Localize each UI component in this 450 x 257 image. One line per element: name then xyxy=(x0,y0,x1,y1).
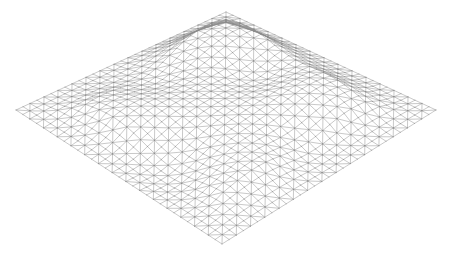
wireframe-terrain-mesh xyxy=(0,0,450,257)
terrain-viewport xyxy=(0,0,450,257)
mesh-lines xyxy=(16,12,436,244)
